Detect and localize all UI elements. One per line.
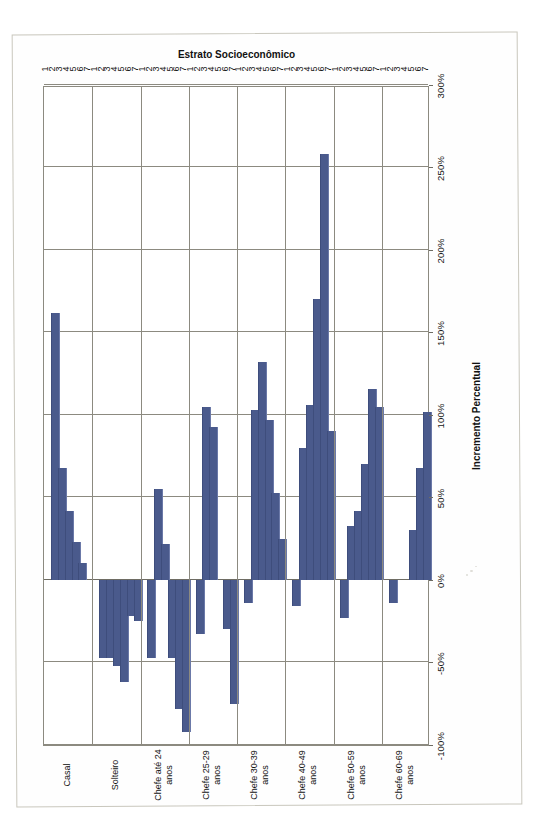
gridline--100 <box>44 744 428 745</box>
bar <box>292 580 301 606</box>
bar <box>78 564 87 581</box>
value-tick <box>429 498 433 499</box>
gridline-200 <box>44 249 428 250</box>
value-tick-label: 300% <box>435 56 446 116</box>
value-tick <box>429 85 433 86</box>
category-separator <box>141 87 142 745</box>
value-tick-label: -50% <box>435 634 446 694</box>
bar <box>389 580 398 603</box>
value-tick <box>429 415 433 416</box>
value-tick <box>429 580 433 581</box>
value-tick-label: 0% <box>435 551 446 611</box>
scan-artifact <box>466 574 468 576</box>
value-tick <box>429 250 433 251</box>
category-label: Casal <box>43 746 91 804</box>
bar <box>196 580 205 634</box>
value-axis-title: Incremento Percentual <box>471 86 482 746</box>
category-label: Chefe 40-49 anos <box>284 746 332 804</box>
value-tick-label: 100% <box>435 386 446 446</box>
category-separator <box>382 87 383 745</box>
bar <box>147 580 156 658</box>
category-label: Chefe 30-39 anos <box>236 746 284 804</box>
category-axis-title-text: Estrato Socioeconômico <box>177 49 294 60</box>
gridline-250 <box>44 167 428 168</box>
value-tick <box>429 663 433 664</box>
gridline-150 <box>44 332 428 333</box>
bar <box>340 580 349 618</box>
bar-chart-figure: CasalSolteiroChefe até 24 anosChefe 25-2… <box>31 34 511 804</box>
category-label: Chefe 25-29 anos <box>188 746 236 804</box>
category-label: Chefe até 24 anos <box>140 746 188 804</box>
bar <box>161 544 170 580</box>
category-label: Chefe 60-69 anos <box>381 746 429 804</box>
category-label: Chefe 50-59 anos <box>333 746 381 804</box>
rotated-figure-wrapper: CasalSolteiroChefe até 24 anosChefe 25-2… <box>31 34 511 804</box>
scan-artifact <box>475 566 477 567</box>
bar <box>209 427 218 580</box>
value-tick <box>429 333 433 334</box>
category-label: Solteiro <box>91 746 139 804</box>
scan-artifact <box>470 570 473 572</box>
value-tick <box>429 745 433 746</box>
value-tick-label: 150% <box>435 304 446 364</box>
value-tick-label: 250% <box>435 139 446 199</box>
category-axis-title: Estrato Socioeconômico <box>43 40 429 68</box>
plot-area <box>43 86 429 746</box>
category-axis-labels: CasalSolteiroChefe até 24 anosChefe 25-2… <box>43 746 429 804</box>
category-separator <box>92 87 93 745</box>
value-tick-label: 200% <box>435 221 446 281</box>
bar <box>244 580 253 603</box>
value-tick <box>429 168 433 169</box>
category-separator <box>334 87 335 745</box>
value-tick-label: -100% <box>435 716 446 776</box>
value-tick-label: 50% <box>435 469 446 529</box>
category-separator <box>189 87 190 745</box>
category-separator <box>285 87 286 745</box>
value-axis: -100%-50%0%50%100%150%200%250%300% <box>429 86 493 746</box>
category-separator <box>237 87 238 745</box>
